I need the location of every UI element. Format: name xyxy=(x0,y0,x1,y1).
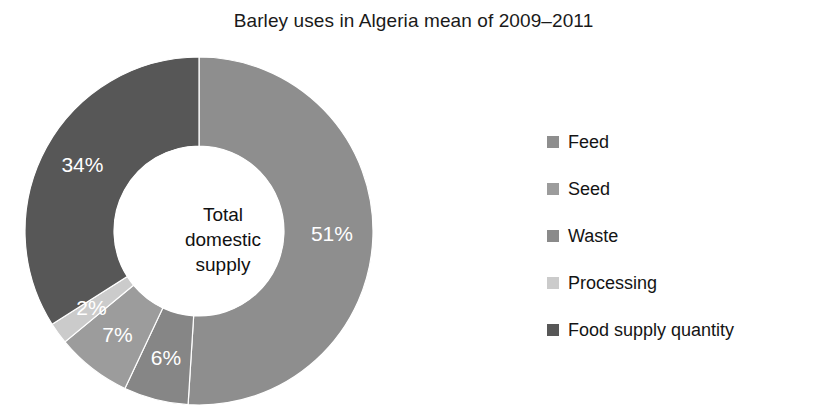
chart-title: Barley uses in Algeria mean of 2009–2011 xyxy=(0,10,827,32)
legend-item-label: Seed xyxy=(568,179,610,199)
chart-container: Barley uses in Algeria mean of 2009–2011… xyxy=(0,0,827,420)
legend-swatch-icon xyxy=(547,136,559,148)
legend-item-processing[interactable]: Processing xyxy=(547,271,812,295)
legend-swatch-icon xyxy=(547,324,559,336)
slice-data-label: 6% xyxy=(151,346,181,369)
legend-item-label: Food supply quantity xyxy=(568,320,734,340)
slice-data-label: 2% xyxy=(76,296,106,319)
donut-chart: 51%6%7%2%34% Total domestic supply xyxy=(24,50,374,412)
legend-item-food-supply-quantity[interactable]: Food supply quantity xyxy=(547,318,812,342)
slice-data-label: 7% xyxy=(102,323,132,346)
legend-item-label: Processing xyxy=(568,273,657,293)
legend-item-feed[interactable]: Feed xyxy=(547,130,812,154)
legend-item-seed[interactable]: Seed xyxy=(547,177,812,201)
chart-legend: Feed Seed Waste Processing Food supply q… xyxy=(547,130,812,365)
slice-data-label: 51% xyxy=(311,222,353,245)
donut-hole xyxy=(114,146,284,316)
legend-item-label: Feed xyxy=(568,132,609,152)
donut-svg: 51%6%7%2%34% xyxy=(24,50,374,412)
legend-swatch-icon xyxy=(547,183,559,195)
legend-swatch-icon xyxy=(547,230,559,242)
legend-swatch-icon xyxy=(547,277,559,289)
legend-item-waste[interactable]: Waste xyxy=(547,224,812,248)
legend-item-label: Waste xyxy=(568,226,618,246)
slice-data-label: 34% xyxy=(61,153,103,176)
